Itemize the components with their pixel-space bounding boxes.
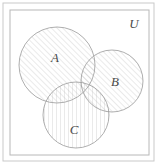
venn-diagram-canvas: A B C U [0, 0, 157, 164]
venn-diagram-figure: A B C U [0, 0, 157, 164]
universe-label: U [129, 16, 140, 31]
set-c-label: C [70, 122, 79, 137]
set-a-label: A [50, 50, 59, 65]
set-b-label: B [111, 74, 119, 89]
